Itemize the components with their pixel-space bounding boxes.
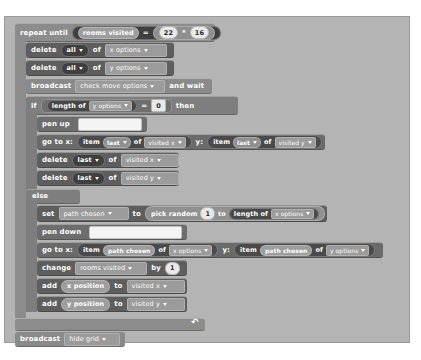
block-go-to-path-chosen[interactable]: go to x: item path chosen of x options y…: [37, 242, 383, 258]
block-go-to-last-visited[interactable]: go to x: item last of visited x y: item …: [37, 134, 325, 150]
reporter-y-position[interactable]: y position: [61, 298, 110, 311]
chevron-down-icon: [123, 141, 127, 144]
list-dropdown-visited-x[interactable]: visited x: [127, 280, 185, 293]
chevron-down-icon: [157, 177, 161, 180]
go-to-x-label: go to x:: [42, 246, 73, 254]
chevron-down-icon: [124, 104, 128, 107]
list-name: x options: [110, 46, 141, 54]
list-dropdown-visited-x[interactable]: visited x: [121, 154, 179, 167]
item-of-y-options-reporter[interactable]: item path chosen of y options: [234, 243, 375, 257]
chevron-down-icon: [253, 141, 257, 144]
block-add-y-position[interactable]: add y position to visited y: [37, 296, 187, 312]
else-branch-spine: [26, 202, 37, 312]
loop-arrow-icon: ↶: [191, 318, 199, 327]
block-change-rooms-visited[interactable]: change rooms visited by 1: [37, 260, 187, 276]
of-label-x: of: [134, 138, 142, 146]
length-of-reporter[interactable]: length of y options: [47, 100, 138, 112]
length-of-list-dropdown[interactable]: y options: [89, 101, 132, 111]
delete-index-dropdown[interactable]: all: [61, 62, 89, 75]
pick-random-reporter[interactable]: pick random 1 to length of x options: [145, 206, 326, 221]
list-name-y: y options: [330, 247, 358, 254]
go-to-y-label: y:: [222, 246, 230, 254]
input-16[interactable]: 16: [190, 26, 209, 39]
variable-path-chosen-y[interactable]: path chosen: [260, 245, 313, 256]
broadcast-message-dropdown[interactable]: hide grid: [64, 333, 120, 346]
block-pen-up[interactable]: pen up: [37, 116, 147, 132]
delete-index-dropdown[interactable]: last: [72, 154, 105, 167]
of-label: of: [93, 46, 101, 54]
variable-rooms-visited[interactable]: rooms visited: [78, 27, 139, 39]
block-repeat-until-header[interactable]: repeat until rooms visited = 22 * 16: [15, 23, 215, 42]
delete-index-dropdown[interactable]: all: [61, 44, 89, 57]
screenshot-root: repeat until rooms visited = 22 * 16 ↶ d…: [0, 0, 421, 360]
chevron-down-icon: [144, 49, 148, 52]
list-dropdown-y-options[interactable]: y options: [105, 62, 167, 75]
list-dropdown-x-options[interactable]: x options: [169, 245, 212, 256]
block-set-path-chosen[interactable]: set path chosen to pick random 1 to leng…: [37, 205, 327, 222]
list-name-x: x options: [173, 247, 201, 254]
item-index-dropdown-x[interactable]: last: [103, 137, 131, 148]
length-of-list: x options: [275, 210, 303, 217]
item-index-dropdown-y[interactable]: last: [233, 137, 261, 148]
item-of-visited-y-reporter[interactable]: item last of visited y: [207, 135, 322, 149]
chevron-down-icon: [95, 159, 99, 162]
variable-path-chosen-x[interactable]: path chosen: [103, 245, 156, 256]
chevron-down-icon: [361, 249, 365, 252]
list-dropdown-visited-y[interactable]: visited y: [275, 137, 316, 148]
delete-index-dropdown[interactable]: last: [72, 172, 105, 185]
equals-operator-block[interactable]: rooms visited = 22 * 16: [72, 26, 221, 40]
variable-name: path chosen: [64, 210, 105, 218]
block-delete-last-visited-y[interactable]: delete last of visited y: [37, 170, 179, 186]
repeat-until-label: repeat until: [20, 29, 68, 37]
reporter-x-position[interactable]: x position: [61, 280, 110, 293]
go-to-x-label: go to x:: [42, 138, 73, 146]
list-dropdown-visited-y[interactable]: visited y: [121, 172, 179, 185]
item-label: item: [213, 138, 230, 146]
item-of-x-options-reporter[interactable]: item path chosen of x options: [77, 243, 218, 257]
chevron-down-icon: [102, 338, 106, 341]
block-delete-x-options[interactable]: delete all of x options: [26, 42, 174, 58]
list-name: visited y: [126, 174, 154, 182]
equals-sign: =: [142, 29, 150, 37]
multiply-operator-block[interactable]: 22 * 16: [153, 26, 215, 40]
chevron-down-icon: [150, 85, 154, 88]
delete-label: delete: [42, 174, 68, 182]
block-pen-down[interactable]: pen down: [37, 224, 187, 240]
list-dropdown-visited-y[interactable]: visited y: [127, 298, 185, 311]
pick-random-from[interactable]: 1: [200, 207, 215, 220]
broadcast-suffix: and wait: [169, 82, 204, 90]
variable-dropdown-rooms-visited[interactable]: rooms visited: [75, 262, 147, 275]
pen-up-label: pen up: [42, 120, 70, 128]
input-22[interactable]: 22: [159, 26, 178, 39]
chevron-down-icon: [163, 303, 167, 306]
block-delete-y-options[interactable]: delete all of y options: [26, 60, 174, 76]
length-of-label: length of: [234, 210, 268, 218]
change-amount[interactable]: 1: [165, 262, 180, 275]
item-index-x: last: [107, 139, 120, 146]
block-add-x-position[interactable]: add x position to visited x: [37, 278, 187, 294]
pen-up-filler: [78, 118, 142, 131]
of-label: of: [109, 156, 117, 164]
item-of-visited-x-reporter[interactable]: item last of visited x: [77, 135, 192, 149]
block-broadcast-hide-grid[interactable]: broadcast hide grid: [15, 331, 125, 347]
length-of-reporter[interactable]: length of x options: [229, 208, 320, 220]
list-name-y: visited y: [279, 139, 305, 146]
broadcast-message-dropdown[interactable]: check move options: [75, 80, 165, 93]
list-dropdown-x-options[interactable]: x options: [105, 44, 167, 57]
block-delete-last-visited-x[interactable]: delete last of visited x: [37, 152, 179, 168]
script-canvas[interactable]: repeat until rooms visited = 22 * 16 ↶ d…: [4, 16, 410, 343]
chevron-down-icon: [128, 267, 132, 270]
of-label-y: of: [315, 246, 323, 254]
equals-condition-block[interactable]: length of y options = 0: [41, 99, 172, 113]
block-if-header[interactable]: if length of y options = 0 then: [26, 96, 238, 115]
pen-down-filler: [89, 226, 182, 239]
then-label: then: [176, 102, 194, 110]
change-label: change: [42, 264, 71, 272]
list-dropdown-visited-x[interactable]: visited x: [144, 137, 185, 148]
chevron-down-icon: [108, 212, 112, 215]
list-dropdown-y-options[interactable]: y options: [326, 245, 369, 256]
length-of-list-dropdown[interactable]: x options: [271, 209, 314, 219]
variable-dropdown-path-chosen[interactable]: path chosen: [59, 207, 129, 220]
input-zero[interactable]: 0: [151, 99, 166, 112]
block-broadcast-check-move-options[interactable]: broadcast check move options and wait: [26, 78, 212, 94]
